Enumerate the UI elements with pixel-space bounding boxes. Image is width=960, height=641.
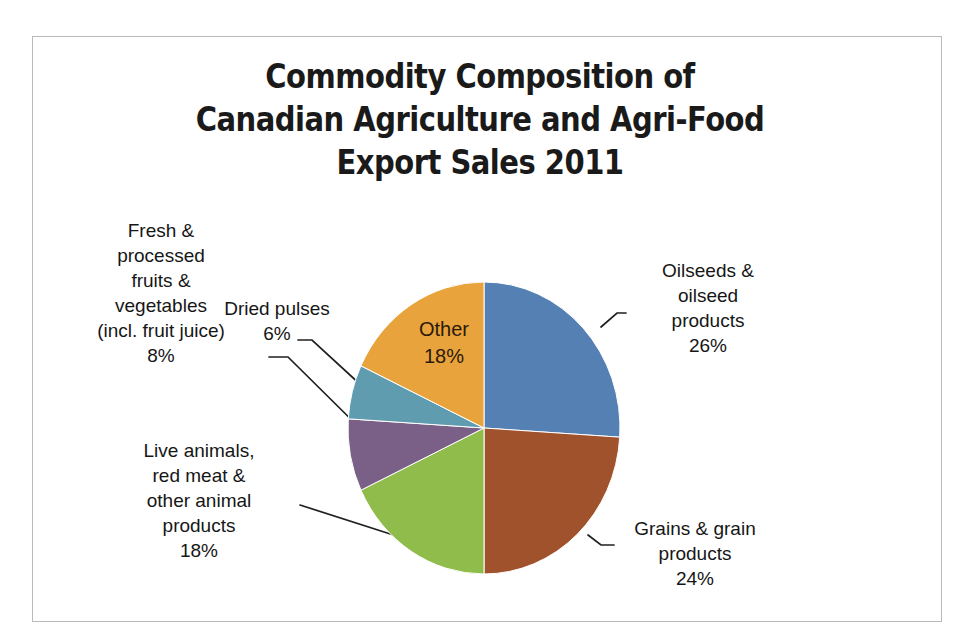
pie-slice xyxy=(484,282,620,437)
chart-title: Commodity Composition of Canadian Agricu… xyxy=(181,56,779,185)
pie-slice-label-grains: Grains & grain products 24% xyxy=(602,516,788,591)
pie-slice xyxy=(484,428,620,574)
pie-slice-label-animals: Live animals, red meat & other animal pr… xyxy=(80,438,318,563)
pie-slice-label-oilseeds: Oilseeds & oilseed products 26% xyxy=(624,258,792,358)
chart-page: Commodity Composition of Canadian Agricu… xyxy=(0,0,960,641)
pie-slice-label-pulses: Dried pulses 6% xyxy=(192,296,362,346)
pie-slice-label-other: Other 18% xyxy=(398,316,490,370)
